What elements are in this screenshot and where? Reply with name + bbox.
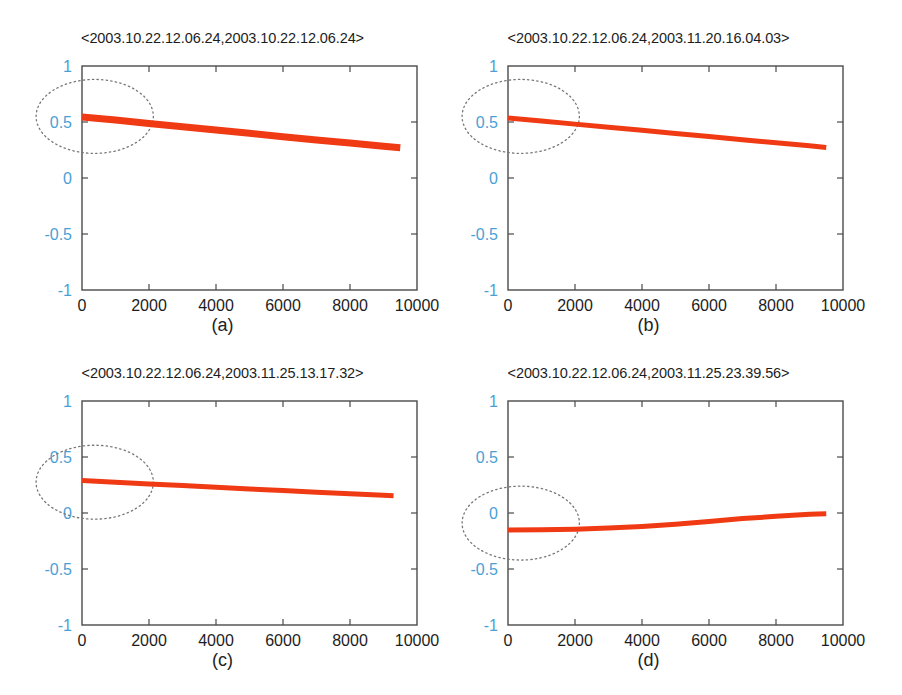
x-tick-label: 4000 — [198, 632, 234, 649]
y-tick-label: 1 — [63, 58, 72, 75]
x-tick-label: 8000 — [758, 297, 794, 314]
data-series-line — [508, 514, 826, 530]
y-tick-label: -0.5 — [44, 561, 72, 578]
chart-plot-area-b: 0200040006000800010000-1-0.500.51 — [444, 30, 898, 325]
figure-canvas: <2003.10.22.12.06.24,2003.10.22.12.06.24… — [0, 0, 902, 695]
x-tick-label: 2000 — [131, 632, 167, 649]
x-tick-label: 0 — [504, 297, 513, 314]
y-tick-label: -1 — [58, 617, 72, 634]
data-series-line — [82, 481, 394, 496]
y-tick-label: -1 — [58, 282, 72, 299]
y-tick-label: 0.5 — [50, 114, 72, 131]
y-tick-label: 0 — [63, 170, 72, 187]
x-tick-label: 10000 — [821, 297, 866, 314]
x-tick-label: 6000 — [265, 632, 301, 649]
x-tick-label: 8000 — [332, 297, 368, 314]
chart-panel-b: <2003.10.22.12.06.24,2003.11.20.16.04.03… — [444, 30, 898, 345]
x-tick-label: 6000 — [691, 632, 727, 649]
chart-panel-d: <2003.10.22.12.06.24,2003.11.25.23.39.56… — [444, 365, 898, 680]
x-tick-label: 10000 — [821, 632, 866, 649]
y-tick-label: 1 — [489, 393, 498, 410]
x-tick-label: 0 — [504, 632, 513, 649]
y-tick-label: 0.5 — [476, 449, 498, 466]
y-tick-label: -0.5 — [470, 561, 498, 578]
x-tick-label: 0 — [78, 632, 87, 649]
y-tick-label: -1 — [484, 617, 498, 634]
y-tick-label: 0 — [489, 170, 498, 187]
chart-panel-c: <2003.10.22.12.06.24,2003.11.25.13.17.32… — [18, 365, 472, 680]
data-series-line — [82, 117, 400, 148]
x-tick-label: 2000 — [131, 297, 167, 314]
x-tick-label: 2000 — [557, 297, 593, 314]
chart-plot-area-d: 0200040006000800010000-1-0.500.51 — [444, 365, 898, 660]
x-tick-label: 0 — [78, 297, 87, 314]
data-series-line — [508, 118, 826, 147]
y-tick-label: -1 — [484, 282, 498, 299]
x-tick-label: 6000 — [265, 297, 301, 314]
y-tick-label: 0.5 — [476, 114, 498, 131]
x-tick-label: 2000 — [557, 632, 593, 649]
x-tick-label: 6000 — [691, 297, 727, 314]
y-tick-label: 1 — [63, 393, 72, 410]
y-tick-label: 0 — [489, 505, 498, 522]
x-tick-label: 4000 — [624, 297, 660, 314]
x-tick-label: 10000 — [395, 297, 440, 314]
highlight-ellipse-annotation — [462, 486, 579, 560]
y-tick-label: -0.5 — [470, 226, 498, 243]
x-tick-label: 8000 — [332, 632, 368, 649]
x-tick-label: 4000 — [198, 297, 234, 314]
chart-plot-area-a: 0200040006000800010000-1-0.500.51 — [18, 30, 472, 325]
x-tick-label: 10000 — [395, 632, 440, 649]
y-tick-label: -0.5 — [44, 226, 72, 243]
x-tick-label: 4000 — [624, 632, 660, 649]
x-tick-label: 8000 — [758, 632, 794, 649]
chart-plot-area-c: 0200040006000800010000-1-0.500.51 — [18, 365, 472, 660]
chart-panel-a: <2003.10.22.12.06.24,2003.10.22.12.06.24… — [18, 30, 472, 345]
y-tick-label: 1 — [489, 58, 498, 75]
